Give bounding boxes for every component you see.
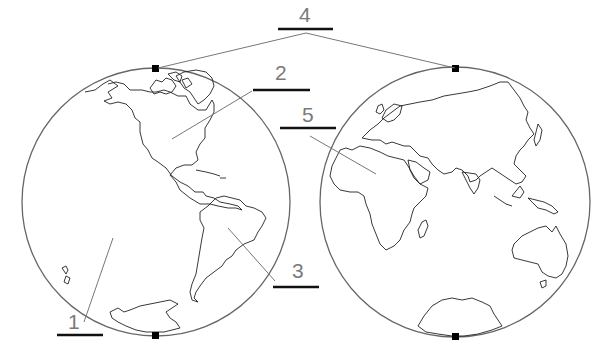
- label-5-number: 5: [302, 103, 314, 126]
- hemispheres-diagram: 4 2 5 3 1: [0, 0, 600, 350]
- left-south-pole-marker: [152, 332, 159, 339]
- eastern-hemisphere: [320, 65, 590, 340]
- label-1-number: 1: [68, 310, 80, 333]
- right-north-pole-marker: [452, 65, 459, 72]
- label-4-number: 4: [299, 3, 311, 26]
- right-south-pole-marker: [452, 333, 459, 340]
- left-north-pole-marker: [152, 65, 159, 72]
- label-2-number: 2: [275, 61, 287, 84]
- label-4: 4: [158, 3, 455, 68]
- western-hemisphere-outline: [22, 68, 290, 336]
- eastern-hemisphere-outline: [320, 67, 590, 337]
- label-3-number: 3: [292, 259, 304, 282]
- label-4-leader-right: [306, 33, 455, 68]
- western-hemisphere: [22, 65, 290, 339]
